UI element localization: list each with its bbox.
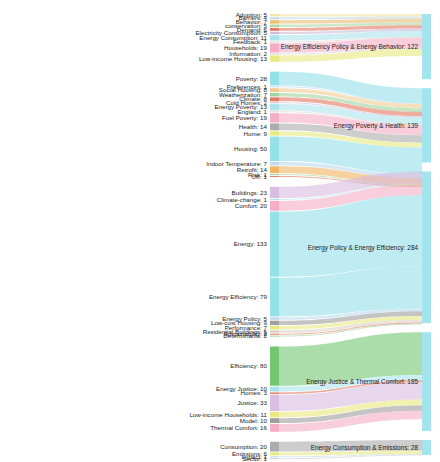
source-node[interactable] xyxy=(270,412,279,417)
source-node-label: Determinants: 2 xyxy=(223,332,267,339)
target-node-label: Energy Justice & Thermal Comfort: 185 xyxy=(306,378,418,386)
source-node[interactable] xyxy=(270,86,279,87)
source-node-label: Buildings: 23 xyxy=(232,189,268,196)
source-node-label: Low-income Housing: 13 xyxy=(199,55,268,62)
source-node[interactable] xyxy=(270,424,279,432)
source-node[interactable] xyxy=(270,41,279,42)
source-node[interactable] xyxy=(270,17,279,19)
source-node[interactable] xyxy=(270,174,279,175)
source-node-label: Energy: 133 xyxy=(234,240,268,247)
source-node[interactable] xyxy=(270,104,279,110)
source-node[interactable] xyxy=(270,334,279,335)
source-node[interactable] xyxy=(270,392,279,393)
source-node[interactable] xyxy=(270,162,279,165)
source-node[interactable] xyxy=(270,14,279,16)
source-node[interactable] xyxy=(270,25,279,27)
source-node[interactable] xyxy=(270,55,279,61)
source-node-label: Model: 10 xyxy=(240,417,268,424)
source-node-label: UK: 1 xyxy=(252,173,268,180)
source-node-layer xyxy=(270,14,279,459)
source-node[interactable] xyxy=(270,43,279,52)
source-node[interactable] xyxy=(270,28,279,31)
source-node[interactable] xyxy=(270,166,279,173)
source-node[interactable] xyxy=(270,111,279,112)
source-node[interactable] xyxy=(270,395,279,411)
source-node[interactable] xyxy=(270,317,279,319)
source-node[interactable] xyxy=(270,102,279,103)
source-node-label: Comfort: 20 xyxy=(235,202,268,209)
source-label-layer: Adoption: 5Barriers: 4Behavior: 7conserv… xyxy=(189,11,267,461)
source-node-label: Fuel Poverty: 19 xyxy=(222,114,268,121)
target-node[interactable] xyxy=(422,171,431,323)
source-node[interactable] xyxy=(270,452,279,455)
sankey-svg: Adoption: 5Barriers: 4Behavior: 7conserv… xyxy=(0,0,440,462)
source-node[interactable] xyxy=(270,212,279,277)
source-node-label: Poverty: 28 xyxy=(236,75,268,82)
source-node-label: Efficiency: 80 xyxy=(230,362,267,369)
target-node[interactable] xyxy=(422,440,431,455)
source-node[interactable] xyxy=(270,137,279,162)
source-node[interactable] xyxy=(270,53,279,54)
source-node-label: Consumption: 20 xyxy=(220,443,267,450)
source-node[interactable] xyxy=(270,326,279,329)
source-node[interactable] xyxy=(270,456,279,457)
source-node[interactable] xyxy=(270,387,279,392)
target-node-label: Energy Poverty & Health: 139 xyxy=(334,122,419,130)
target-node-layer xyxy=(422,14,431,455)
source-node-label: Home: 9 xyxy=(244,130,268,137)
link-layer xyxy=(279,14,422,459)
source-node-label: Thermal Comfort: 16 xyxy=(210,424,267,431)
source-node[interactable] xyxy=(270,199,279,200)
target-node[interactable] xyxy=(422,332,431,431)
source-node[interactable] xyxy=(270,123,279,130)
source-node[interactable] xyxy=(270,88,279,92)
source-node[interactable] xyxy=(270,321,279,325)
source-node[interactable] xyxy=(270,93,279,96)
target-node-label: Energy Efficiency Policy & Energy Behavi… xyxy=(281,43,419,51)
source-node[interactable] xyxy=(270,330,279,332)
source-node[interactable] xyxy=(270,20,279,23)
target-node-label: Energy Consumption & Emissions: 28 xyxy=(311,444,419,452)
source-node-label: Justice: 33 xyxy=(237,399,267,406)
source-node[interactable] xyxy=(270,442,279,452)
sankey-link xyxy=(279,14,422,17)
target-node[interactable] xyxy=(422,88,431,162)
source-node[interactable] xyxy=(270,278,279,317)
source-node[interactable] xyxy=(270,176,279,177)
sankey-diagram: Adoption: 5Barriers: 4Behavior: 7conserv… xyxy=(0,0,440,462)
source-node-label: Homes: 3 xyxy=(241,389,268,396)
source-node[interactable] xyxy=(270,347,279,386)
source-node[interactable] xyxy=(270,131,279,135)
source-node[interactable] xyxy=(270,336,279,337)
source-node[interactable] xyxy=(270,97,279,101)
source-node[interactable] xyxy=(270,72,279,86)
source-node[interactable] xyxy=(270,201,279,211)
target-node[interactable] xyxy=(422,14,431,79)
target-node-label: Energy Policy & Energy Efficiency: 284 xyxy=(308,244,419,252)
source-node[interactable] xyxy=(270,458,279,459)
source-node[interactable] xyxy=(270,418,279,423)
source-node-label: Energy Efficiency: 79 xyxy=(209,293,268,300)
source-node[interactable] xyxy=(270,187,279,198)
source-node[interactable] xyxy=(270,35,279,40)
source-node[interactable] xyxy=(270,113,279,122)
source-node-label: Housing: 50 xyxy=(234,145,268,152)
source-node-label: Sector: 1 xyxy=(242,455,267,462)
source-node[interactable] xyxy=(270,32,279,34)
